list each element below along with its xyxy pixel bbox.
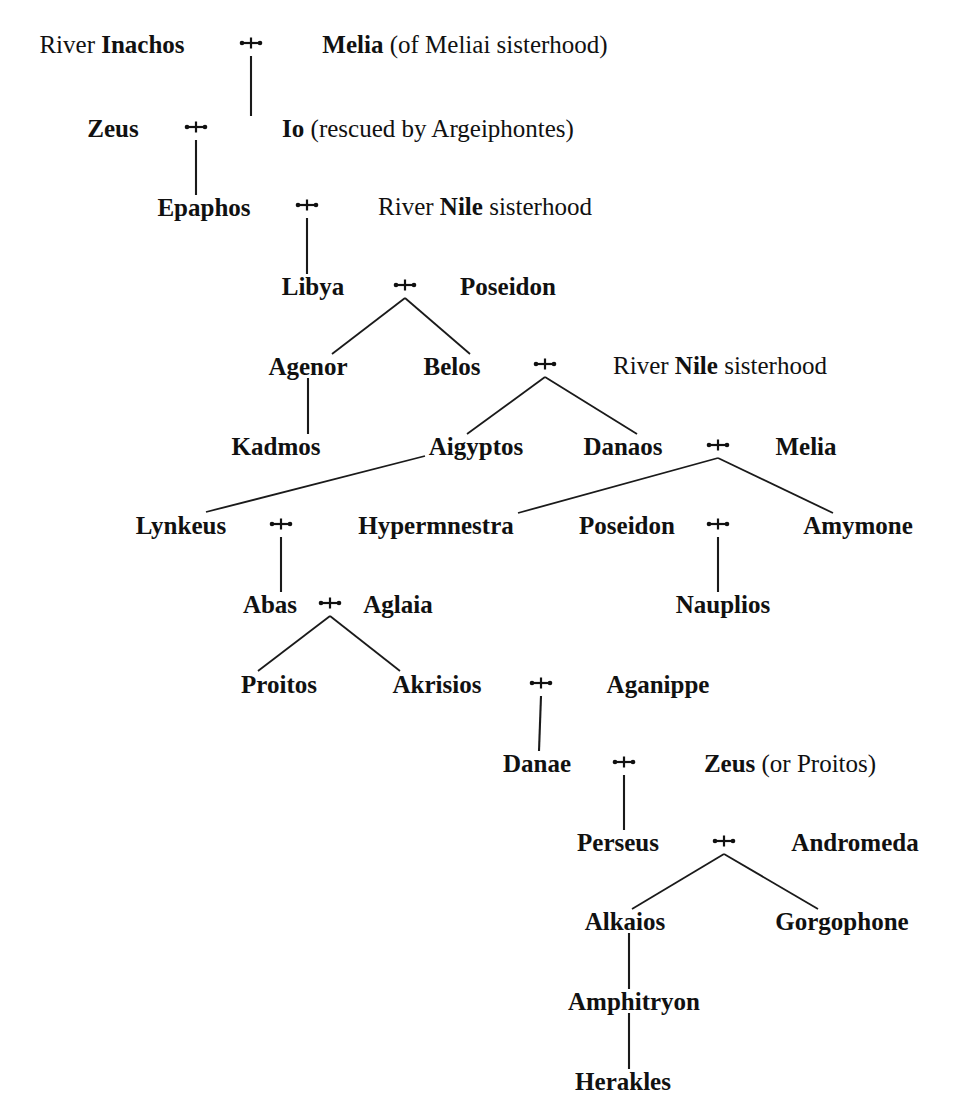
marriage-union-symbol bbox=[294, 198, 320, 212]
person-annotation: sisterhood bbox=[483, 193, 592, 220]
marriage-glyph bbox=[317, 596, 343, 610]
person-name: Nile bbox=[440, 193, 483, 220]
person-node-aglaia: Aglaia bbox=[363, 592, 432, 617]
marriage-glyph bbox=[268, 517, 294, 531]
person-node-epaphos: Epaphos bbox=[157, 195, 250, 220]
person-node-danaos: Danaos bbox=[583, 434, 662, 459]
person-name: Inachos bbox=[101, 31, 184, 58]
marriage-union-symbol bbox=[183, 120, 209, 134]
person-name: Melia bbox=[775, 433, 836, 460]
person-node-herakles: Herakles bbox=[575, 1069, 671, 1094]
descent-line bbox=[332, 298, 405, 354]
person-node-gorgophone: Gorgophone bbox=[775, 909, 908, 934]
person-node-kadmos: Kadmos bbox=[232, 434, 321, 459]
person-node-io: Io (rescued by Argeiphontes) bbox=[282, 116, 574, 141]
person-name: Amymone bbox=[803, 512, 913, 539]
marriage-glyph bbox=[392, 278, 418, 292]
person-node-amymone: Amymone bbox=[803, 513, 913, 538]
descent-line bbox=[718, 458, 833, 513]
marriage-glyph bbox=[183, 120, 209, 134]
person-name: Epaphos bbox=[157, 194, 250, 221]
marriage-glyph bbox=[238, 36, 264, 50]
person-name: Melia bbox=[322, 31, 383, 58]
person-node-melia1: Melia (of Meliai sisterhood) bbox=[322, 32, 607, 57]
person-node-andromeda: Andromeda bbox=[791, 830, 918, 855]
descent-line bbox=[518, 458, 718, 513]
person-annotation: (or Proitos) bbox=[755, 750, 876, 777]
person-name: Lynkeus bbox=[136, 512, 226, 539]
person-name: Danaos bbox=[583, 433, 662, 460]
person-name: Aglaia bbox=[363, 591, 432, 618]
marriage-glyph bbox=[711, 834, 737, 848]
descent-line bbox=[258, 616, 330, 671]
descent-line bbox=[724, 854, 818, 909]
person-name: Proitos bbox=[241, 671, 317, 698]
person-name: Poseidon bbox=[460, 273, 556, 300]
person-name: Belos bbox=[424, 353, 481, 380]
person-node-perseus: Perseus bbox=[577, 830, 659, 855]
person-name: Zeus bbox=[87, 115, 138, 142]
person-name: Abas bbox=[243, 591, 297, 618]
genealogy-chart: River InachosMelia (of Meliai sisterhood… bbox=[0, 0, 962, 1115]
person-name: Hypermnestra bbox=[358, 512, 514, 539]
person-node-nauplios: Nauplios bbox=[676, 592, 770, 617]
marriage-glyph bbox=[611, 755, 637, 769]
person-node-nile1: River Nile sisterhood bbox=[378, 194, 592, 219]
marriage-union-symbol bbox=[392, 278, 418, 292]
person-node-agenor: Agenor bbox=[268, 354, 347, 379]
person-name: Zeus bbox=[704, 750, 755, 777]
person-node-poseidon2: Poseidon bbox=[579, 513, 675, 538]
person-node-proitos: Proitos bbox=[241, 672, 317, 697]
person-name: Libya bbox=[282, 273, 345, 300]
person-name: Danae bbox=[503, 750, 571, 777]
person-node-lynkeus: Lynkeus bbox=[136, 513, 226, 538]
person-name: Io bbox=[282, 115, 304, 142]
marriage-glyph bbox=[705, 438, 731, 452]
person-node-nile2: River Nile sisterhood bbox=[613, 353, 827, 378]
person-node-abas: Abas bbox=[243, 592, 297, 617]
person-name: Nauplios bbox=[676, 591, 770, 618]
person-prefix: River bbox=[613, 352, 675, 379]
person-name: Aigyptos bbox=[429, 433, 523, 460]
marriage-union-symbol bbox=[238, 36, 264, 50]
person-node-aigyptos: Aigyptos bbox=[429, 434, 523, 459]
person-node-libya: Libya bbox=[282, 274, 345, 299]
person-prefix: River bbox=[39, 31, 101, 58]
person-name: Poseidon bbox=[579, 512, 675, 539]
marriage-union-symbol bbox=[532, 357, 558, 371]
person-node-aganippe: Aganippe bbox=[607, 672, 710, 697]
person-node-poseidon1: Poseidon bbox=[460, 274, 556, 299]
person-prefix: River bbox=[378, 193, 440, 220]
descent-line bbox=[330, 616, 400, 671]
person-annotation: (rescued by Argeiphontes) bbox=[304, 115, 574, 142]
person-name: Akrisios bbox=[393, 671, 482, 698]
person-name: Nile bbox=[675, 352, 718, 379]
person-node-akrisios: Akrisios bbox=[393, 672, 482, 697]
person-name: Herakles bbox=[575, 1068, 671, 1095]
marriage-glyph bbox=[532, 357, 558, 371]
person-annotation: (of Meliai sisterhood) bbox=[383, 31, 607, 58]
person-name: Perseus bbox=[577, 829, 659, 856]
person-name: Agenor bbox=[268, 353, 347, 380]
person-name: Amphitryon bbox=[568, 988, 700, 1015]
person-name: Andromeda bbox=[791, 829, 918, 856]
person-node-zeus2: Zeus (or Proitos) bbox=[704, 751, 876, 776]
marriage-union-symbol bbox=[711, 834, 737, 848]
marriage-union-symbol bbox=[611, 755, 637, 769]
person-annotation: sisterhood bbox=[718, 352, 827, 379]
marriage-union-symbol bbox=[705, 438, 731, 452]
person-node-hypermnestra: Hypermnestra bbox=[358, 513, 514, 538]
descent-line bbox=[405, 298, 470, 354]
person-node-melia2: Melia bbox=[775, 434, 836, 459]
marriage-glyph bbox=[705, 517, 731, 531]
person-name: Gorgophone bbox=[775, 908, 908, 935]
descent-line bbox=[539, 696, 541, 751]
marriage-glyph bbox=[294, 198, 320, 212]
person-node-zeus1: Zeus bbox=[87, 116, 138, 141]
marriage-union-symbol bbox=[317, 596, 343, 610]
marriage-glyph bbox=[528, 676, 554, 690]
descent-line bbox=[206, 456, 425, 512]
person-name: Kadmos bbox=[232, 433, 321, 460]
marriage-union-symbol bbox=[528, 676, 554, 690]
person-node-alkaios: Alkaios bbox=[585, 909, 666, 934]
